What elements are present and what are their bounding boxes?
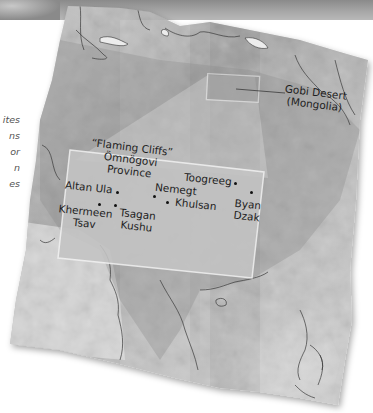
site-marker-altan-ula <box>116 191 119 194</box>
site-marker-tsagan-kushu <box>114 204 117 207</box>
site-marker-byan-dzak <box>250 191 253 194</box>
asia-relief-map: Gobi Desert (Mongolia) “Flaming Cliffs” … <box>0 0 373 413</box>
site-marker-toogreeg <box>234 182 237 185</box>
gobi-marker-box <box>206 74 259 103</box>
site-marker-khermeen-tsav <box>98 203 101 206</box>
site-marker-khulsan <box>166 201 169 204</box>
site-label-byan-dzak: Byan Dzak <box>233 197 262 224</box>
site-marker-nemegt <box>153 195 156 198</box>
site-label-tsagan-kushu: Tsagan Kushu <box>118 206 157 234</box>
